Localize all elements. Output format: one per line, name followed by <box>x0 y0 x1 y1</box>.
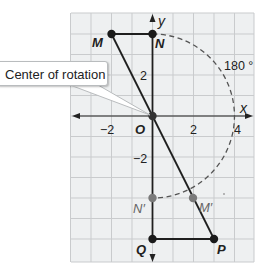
tick-y-neg2: −2 <box>133 152 147 166</box>
label-M: M <box>92 35 104 50</box>
label-N: N <box>155 36 165 51</box>
center-of-rotation-callout: Center of rotation <box>0 61 108 86</box>
label-Q: Q <box>136 242 146 257</box>
point-Q <box>148 235 156 243</box>
tick-y-2: 2 <box>140 69 147 83</box>
tick-x-4: 4 <box>234 123 241 137</box>
label-M-prime: M′ <box>199 200 213 215</box>
point-O <box>148 112 156 120</box>
tick-x-neg2: −2 <box>100 123 114 137</box>
point-M <box>107 30 115 38</box>
label-P: P <box>217 242 226 257</box>
stray-dot <box>223 193 225 195</box>
label-y-axis: y <box>157 13 166 29</box>
tick-x-2: 2 <box>190 123 197 137</box>
label-angle: 180 ° <box>224 59 253 73</box>
label-N-prime: N′ <box>133 201 145 216</box>
label-x-axis: x <box>239 100 248 116</box>
label-O: O <box>135 122 145 137</box>
point-N-prime <box>148 194 156 202</box>
point-M-prime <box>189 194 197 202</box>
rotation-diagram: y x M N O N′ M′ Q P 180 ° −2 2 4 2 −2 <box>0 0 273 274</box>
